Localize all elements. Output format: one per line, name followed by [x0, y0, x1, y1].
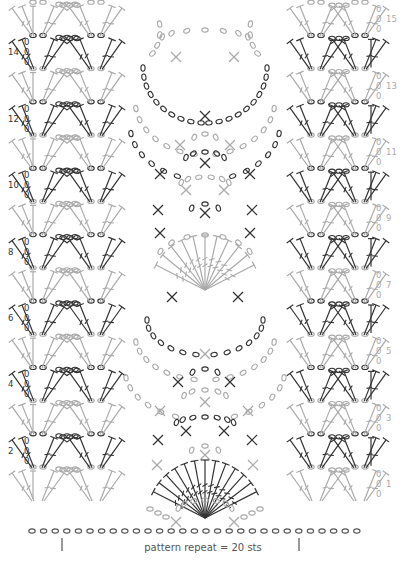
svg-text:0: 0 [24, 446, 29, 456]
chain-stitch-icon [137, 347, 143, 354]
chain-stitch-icon [56, 102, 62, 106]
chain-stitch-icon [267, 116, 273, 123]
chain-stitch-icon [183, 234, 190, 240]
chain-stitch-icon [134, 393, 141, 401]
row-label-right: 0009 [376, 203, 391, 233]
chain-stitch-icon [150, 332, 157, 340]
chain-stitch-icon [189, 414, 197, 420]
chain-stitch-icon [296, 529, 302, 533]
chain-stitch-icon [251, 135, 258, 142]
chain-stitch-icon [184, 175, 192, 182]
chain-stitch-icon [249, 511, 255, 515]
chain-stitch-icon [206, 121, 213, 126]
chain-stitch-icon [260, 356, 267, 364]
svg-text:0: 0 [24, 247, 29, 257]
chain-stitch-icon [74, 468, 80, 472]
svg-text:0: 0 [24, 237, 29, 247]
chain-stitch-icon [75, 529, 81, 533]
chain-stitch-icon [189, 446, 195, 453]
chain-stitch-icon [60, 103, 66, 107]
chain-stitch-icon [272, 105, 277, 112]
chain-stitch-icon [229, 173, 236, 179]
chain-stitch-icon [352, 0, 358, 4]
chain-stitch-icon [223, 392, 229, 399]
single-crochet-icon [171, 52, 181, 62]
chain-stitch-icon [238, 529, 244, 533]
svg-text:0: 0 [376, 81, 381, 91]
single-crochet-icon [247, 205, 257, 215]
chain-stitch-icon [143, 126, 150, 134]
chain-stitch-icon [146, 325, 152, 332]
chain-stitch-icon [176, 148, 183, 154]
chain-stitch-icon [157, 20, 162, 27]
chain-stitch-icon [214, 388, 222, 395]
chain-stitch-icon [56, 268, 62, 272]
chain-stitch-icon [192, 352, 199, 357]
chain-stitch-icon [265, 65, 269, 71]
row-label-right: 0001 [376, 469, 391, 499]
single-crochet-icon [229, 52, 239, 62]
chain-stitch-icon [202, 444, 208, 448]
row-number: 3 [386, 413, 391, 423]
chain-stitch-icon [153, 98, 160, 106]
svg-text:0: 0 [24, 323, 29, 333]
svg-text:0: 0 [24, 170, 29, 180]
chain-stitch-icon [267, 347, 273, 354]
single-crochet-icon [247, 435, 257, 445]
chain-stitch-icon [226, 148, 233, 154]
chain-stitch-icon [202, 28, 208, 32]
chain-stitch-icon [156, 529, 162, 533]
single-crochet-icon [219, 426, 229, 436]
chain-stitch-icon [128, 130, 133, 137]
svg-text:0: 0 [24, 313, 29, 323]
chain-stitch-icon [64, 529, 70, 533]
single-crochet-icon [200, 158, 210, 168]
single-crochet-icon [181, 185, 191, 195]
svg-text:0: 0 [376, 469, 381, 479]
chain-stitch-icon [74, 70, 80, 74]
chain-stitch-icon [133, 105, 138, 112]
treble-crochet-icon [205, 462, 230, 518]
chain-stitch-icon [202, 388, 208, 392]
chain-stitch-icon [215, 204, 221, 211]
chain-stitch-icon [241, 515, 247, 519]
chain-stitch-icon [74, 435, 80, 439]
chain-stitch-icon [56, 401, 62, 405]
svg-text:0: 0 [376, 91, 381, 101]
chain-stitch-icon [342, 529, 348, 533]
single-crochet-icon [245, 228, 255, 238]
chain-stitch-icon [60, 3, 66, 7]
chain-stitch-icon [220, 28, 228, 34]
chain-stitch-icon [60, 136, 66, 140]
svg-text:0: 0 [376, 413, 381, 423]
svg-text:0: 0 [376, 147, 381, 157]
treble-crochet-icon [205, 239, 232, 290]
chain-stitch-icon [272, 141, 278, 148]
svg-text:0: 0 [376, 203, 381, 213]
chain-stitch-icon [143, 82, 149, 89]
single-crochet-icon [181, 426, 191, 436]
chain-stitch-icon [149, 50, 157, 57]
chain-stitch-icon [163, 369, 171, 376]
chain-stitch-icon [239, 143, 247, 150]
crochet-chart: 0001400012000100008000600040002000150001… [0, 0, 406, 571]
chain-stitch-icon [137, 116, 143, 123]
chain-stitch-icon [203, 529, 209, 533]
svg-text:0: 0 [24, 303, 29, 313]
svg-text:0: 0 [376, 24, 381, 34]
chain-stitch-icon [168, 111, 176, 118]
chain-stitch-icon [74, 136, 80, 140]
chain-stitch-icon [74, 335, 80, 339]
chain-stitch-icon [74, 103, 80, 107]
chain-stitch-icon [74, 368, 80, 372]
single-crochet-icon [200, 111, 210, 121]
svg-text:0: 0 [24, 436, 29, 446]
chain-stitch-icon [145, 317, 149, 323]
svg-text:0: 0 [376, 213, 381, 223]
row-label-right: 0007 [376, 270, 391, 300]
chain-stitch-icon [60, 70, 66, 74]
chain-stitch-icon [214, 529, 220, 533]
chain-stitch-icon [155, 511, 161, 515]
svg-text:0: 0 [376, 137, 381, 147]
row-number: 8 [8, 247, 13, 257]
